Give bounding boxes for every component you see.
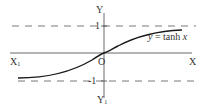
- y-axis-label: Y: [96, 5, 103, 15]
- upper-asymptote-label: 1: [95, 21, 100, 31]
- origin-label: O: [98, 57, 105, 67]
- lower-asymptote-label: -1: [88, 76, 96, 86]
- function-label: y = tanh x: [148, 32, 187, 42]
- x-axis-label: X: [189, 57, 196, 67]
- tanh-graph: [0, 0, 218, 110]
- function-label-eq: = tanh: [152, 31, 182, 42]
- x-negative-label: X1: [10, 57, 20, 67]
- function-label-x: x: [183, 31, 187, 42]
- y-negative-label: Y1: [97, 95, 107, 105]
